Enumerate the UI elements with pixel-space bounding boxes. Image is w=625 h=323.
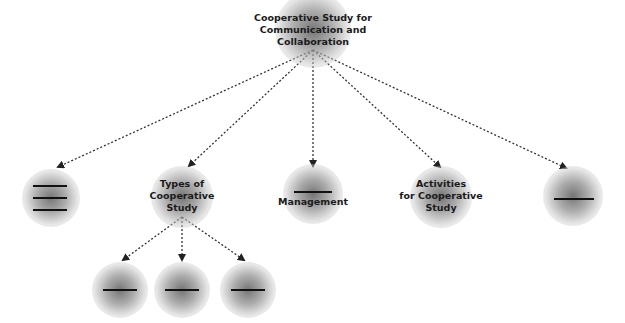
types-label-line-1: Types of [150, 178, 215, 190]
root-node-title: Cooperative Study for Communication and … [254, 12, 372, 48]
type-1-blank-line [103, 289, 137, 291]
blank-line-2 [33, 197, 67, 199]
connector-root-to-activities [313, 50, 440, 167]
types-label-line-3: Study [150, 202, 215, 214]
activities-label-line-2: for Cooperative [399, 190, 482, 202]
connector-root-to-blank-single [313, 50, 566, 168]
types-label-line-2: Cooperative [150, 190, 215, 202]
types-node-label: Types of Cooperative Study [150, 178, 215, 214]
activities-node-label: Activities for Cooperative Study [399, 178, 482, 214]
activities-label-line-1: Activities [399, 178, 482, 190]
management-blank-line [294, 191, 332, 193]
blank-line-3 [33, 209, 67, 211]
management-node [283, 164, 343, 224]
root-title-line-1: Cooperative Study for [254, 12, 372, 24]
root-title-line-2: Communication and [254, 24, 372, 36]
blank-single-line [554, 198, 594, 200]
connector-root-to-types [189, 50, 313, 166]
activities-label-line-3: Study [399, 202, 482, 214]
root-title-line-3: Collaboration [254, 36, 372, 48]
blank-single-node [543, 166, 603, 226]
type-2-blank-line [165, 289, 199, 291]
management-node-label: Management [278, 196, 348, 208]
concept-map: Cooperative Study for Communication and … [0, 0, 625, 323]
type-3-blank-line [231, 289, 265, 291]
connector-root-to-blank-triple [58, 50, 313, 167]
blank-line-1 [33, 185, 67, 187]
